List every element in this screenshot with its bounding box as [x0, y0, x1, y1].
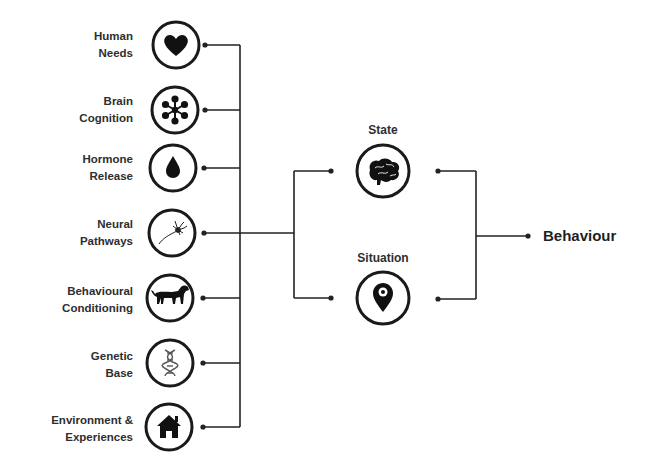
label-behavioural-conditioning: Behavioural Conditioning [3, 283, 133, 317]
label-hormone-release: Hormone Release [3, 151, 133, 185]
label-line: Pathways [3, 233, 133, 250]
label-human-needs: Human Needs [3, 28, 133, 62]
label-line: Environment & [3, 412, 133, 429]
label-environment-experiences: Environment & Experiences [3, 412, 133, 446]
label-line: Behavioural [3, 283, 133, 300]
label-line: Release [3, 168, 133, 185]
label-line: Needs [3, 45, 133, 62]
label-line: Conditioning [3, 300, 133, 317]
label-behaviour: Behaviour [543, 227, 616, 244]
label-line: Brain [3, 93, 133, 110]
label-state: State [333, 123, 433, 137]
label-line: Base [3, 365, 133, 382]
label-line: Human [3, 28, 133, 45]
label-line: Neural [3, 216, 133, 233]
label-genetic-base: Genetic Base [3, 348, 133, 382]
label-brain-cognition: Brain Cognition [3, 93, 133, 127]
behaviour-diagram: Human Needs Brain Cognition Hormone Rele… [0, 0, 661, 474]
label-line: Genetic [3, 348, 133, 365]
label-line: Cognition [3, 110, 133, 127]
label-neural-pathways: Neural Pathways [3, 216, 133, 250]
label-line: Experiences [3, 429, 133, 446]
label-line: Hormone [3, 151, 133, 168]
label-situation: Situation [333, 251, 433, 265]
